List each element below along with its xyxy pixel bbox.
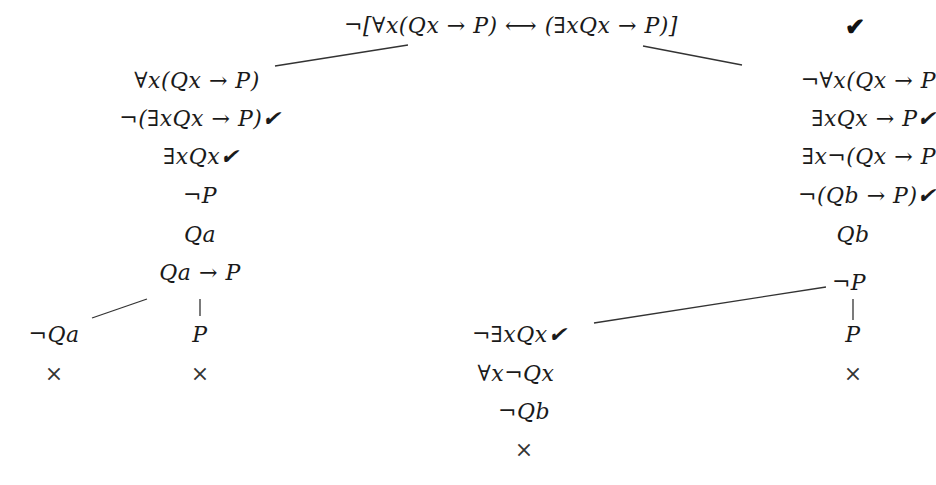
left-node-2: ¬(∃xQx → P)✔ bbox=[119, 106, 281, 132]
right-node-1: ¬∀x(Qx → P bbox=[801, 68, 936, 94]
right-split-right-node-2: P bbox=[845, 322, 860, 348]
right-node-5: Qb bbox=[836, 222, 869, 248]
right-split-left-node-1: ¬∃xQx✔ bbox=[472, 322, 566, 348]
root-formula: ¬[∀x(Qx → P) ⟷ (∃xQx → P)] bbox=[344, 13, 678, 39]
right-node-2: ∃xQx → P✔ bbox=[811, 106, 936, 132]
closed-branch-icon: × bbox=[191, 361, 209, 387]
right-split-right-node-1: ¬P bbox=[832, 270, 866, 296]
right-split-left-node-3: ¬Qb bbox=[498, 399, 550, 425]
right-node-4: ¬(Qb → P)✔ bbox=[798, 183, 936, 209]
branch-line-qb-left bbox=[594, 287, 826, 323]
right-node-3: ∃x¬(Qx → P bbox=[802, 144, 936, 170]
left-node-1: ∀x(Qx → P) bbox=[134, 68, 260, 94]
truth-tree-diagram: ¬[∀x(Qx → P) ⟷ (∃xQx → P)] ✔ ∀x(Qx → P) … bbox=[0, 0, 936, 485]
check-mark-icon: ✔ bbox=[845, 14, 865, 40]
left-split-left-node: ¬Qa bbox=[28, 322, 79, 348]
branch-line-qa-left bbox=[92, 299, 147, 318]
left-node-6: Qa → P bbox=[159, 260, 240, 286]
right-split-left-node-2: ∀x¬Qx bbox=[477, 361, 554, 387]
closed-branch-icon: × bbox=[45, 361, 63, 387]
branch-line-root-right bbox=[643, 46, 742, 65]
left-node-3: ∃xQx✔ bbox=[163, 144, 238, 170]
closed-branch-icon: × bbox=[515, 437, 533, 463]
left-split-right-node: P bbox=[192, 322, 207, 348]
branch-line-root-left bbox=[275, 45, 408, 66]
left-node-4: ¬P bbox=[183, 183, 217, 209]
closed-branch-icon: × bbox=[844, 361, 862, 387]
left-node-5: Qa bbox=[184, 222, 216, 248]
